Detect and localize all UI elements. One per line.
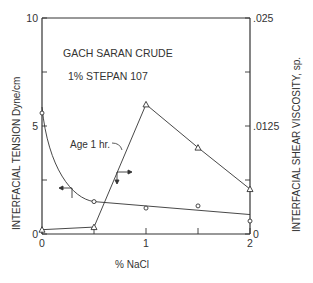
- chart: 05100.0125.025012 GACH SARAN CRUDE 1% ST…: [0, 0, 313, 283]
- annotation-leader: [112, 143, 122, 150]
- x-axis-label: % NaCl: [115, 259, 149, 270]
- y-left-tick-label: 5: [32, 120, 38, 132]
- y-right-tick-label: 0: [253, 228, 259, 240]
- y-axis-label-right: INTERFACIAL SHEAR VISCOSITY, sp.: [291, 57, 302, 232]
- x-tick-label: 2: [247, 237, 253, 249]
- y-left-tick-label: 10: [26, 12, 38, 24]
- data-point-triangle: [143, 101, 149, 107]
- y-axis-label-left: INTERFACIAL TENSION Dyne/cm: [11, 77, 22, 230]
- data-point-circle: [248, 219, 252, 223]
- y-right-tick-label: .025: [253, 12, 274, 24]
- right-axis-arrow-icon: [115, 170, 132, 184]
- data-point-circle: [144, 206, 148, 210]
- chart-subtitle: 1% STEPAN 107: [68, 70, 148, 82]
- y-left-tick-label: 0: [32, 228, 38, 240]
- data-point-circle: [92, 200, 96, 204]
- data-point-circle: [196, 204, 200, 208]
- left-axis-arrow-icon: [59, 186, 72, 198]
- y-right-tick-label: .0125: [253, 120, 279, 132]
- x-tick-label: 0: [39, 237, 45, 249]
- chart-title: GACH SARAN CRUDE: [63, 47, 173, 59]
- data-point-circle: [40, 111, 44, 115]
- x-tick-label: 1: [143, 237, 149, 249]
- annotation-age: Age 1 hr.: [70, 139, 110, 150]
